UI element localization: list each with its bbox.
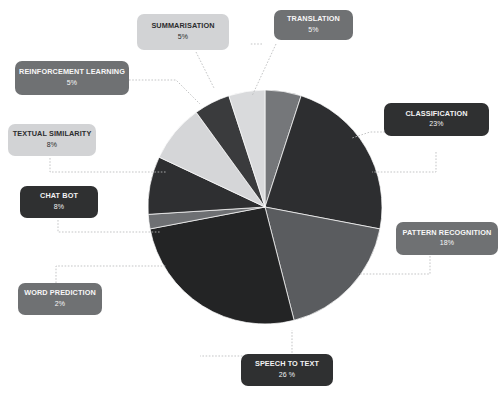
callout-word-prediction-value: 2%	[55, 300, 65, 309]
callout-textual-similarity-title: TEXTUAL SIMILARITY	[13, 129, 92, 138]
callout-pattern-recognition[interactable]: PATTERN RECOGNITION 18%	[396, 222, 498, 255]
leader-line-chat-bot	[58, 220, 160, 232]
callout-word-prediction[interactable]: WORD PREDICTION 2%	[18, 283, 102, 315]
callout-reinforcement-learning[interactable]: REINFORCEMENT LEARNING 5%	[15, 61, 129, 95]
callout-classification[interactable]: CLASSIFICATION 23%	[384, 103, 489, 136]
callout-speech-to-text-value: 26 %	[279, 371, 295, 380]
leader-line-textual-similarity	[50, 158, 166, 172]
callout-textual-similarity-value: 8%	[47, 141, 57, 150]
callout-translation-title: TRANSLATION	[287, 14, 340, 23]
callout-word-prediction-title: WORD PREDICTION	[24, 288, 96, 297]
pie-chart-infographic: SUMMARISATION 5% TRANSLATION 5% REINFORC…	[0, 0, 502, 397]
callout-summarisation[interactable]: SUMMARISATION 5%	[137, 14, 229, 50]
callout-pattern-recognition-title: PATTERN RECOGNITION	[403, 228, 492, 237]
callout-classification-value: 23%	[429, 120, 443, 129]
callout-translation-value: 5%	[308, 26, 318, 35]
callout-chat-bot-value: 8%	[54, 203, 64, 212]
leader-line-translation	[252, 44, 276, 96]
callout-chat-bot[interactable]: CHAT BOT 8%	[20, 186, 98, 218]
callout-chat-bot-title: CHAT BOT	[40, 191, 78, 200]
leader-line-word-prediction	[56, 266, 166, 283]
callout-classification-title: CLASSIFICATION	[405, 109, 467, 118]
leader-line-reinforcement-learning	[129, 80, 200, 104]
callout-textual-similarity[interactable]: TEXTUAL SIMILARITY 8%	[8, 124, 96, 156]
callout-reinforcement-learning-value: 5%	[67, 79, 77, 88]
leader-line-classification-down	[372, 152, 436, 172]
callout-summarisation-value: 5%	[178, 33, 188, 42]
leader-line-summarisation	[196, 52, 214, 88]
callout-pattern-recognition-value: 18%	[440, 239, 454, 248]
callout-speech-to-text[interactable]: SPEECH TO TEXT 26 %	[241, 354, 333, 386]
pie-slice-group	[148, 90, 382, 324]
callout-translation[interactable]: TRANSLATION 5%	[274, 10, 353, 40]
callout-speech-to-text-title: SPEECH TO TEXT	[255, 359, 319, 368]
callout-reinforcement-learning-title: REINFORCEMENT LEARNING	[19, 67, 125, 76]
callout-summarisation-title: SUMMARISATION	[151, 21, 214, 30]
